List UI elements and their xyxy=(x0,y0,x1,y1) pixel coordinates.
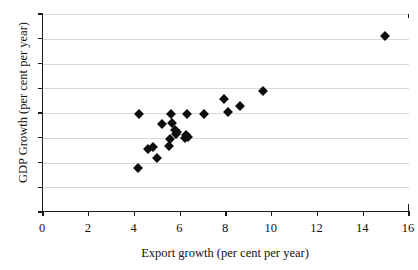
data-point xyxy=(235,101,245,111)
x-axis-title: Export growth (per cent per year) xyxy=(42,246,408,261)
x-tick-label-8: 8 xyxy=(210,222,240,235)
y-tick-3 xyxy=(38,137,43,138)
x-tick-label-10: 10 xyxy=(256,222,286,235)
data-point xyxy=(152,153,162,163)
x-tick-16 xyxy=(408,211,409,216)
x-tick-label-14: 14 xyxy=(347,222,377,235)
y-tick-5 xyxy=(38,88,43,89)
data-point xyxy=(223,107,233,117)
x-tick-2 xyxy=(88,211,89,216)
y-tick-2 xyxy=(38,162,43,163)
gridline-y-1 xyxy=(43,187,409,188)
y-tick-8 xyxy=(38,13,43,14)
plot-border-right-bottom xyxy=(408,204,409,211)
data-point xyxy=(219,94,229,104)
plot-border-right-top xyxy=(408,14,409,18)
y-tick-4 xyxy=(38,112,43,113)
x-tick-label-0: 0 xyxy=(27,222,57,235)
x-tick-6 xyxy=(180,211,181,216)
y-tick-1 xyxy=(38,187,43,188)
x-tick-4 xyxy=(134,211,135,216)
data-point xyxy=(182,109,192,119)
x-tick-label-2: 2 xyxy=(73,222,103,235)
y-tick-7 xyxy=(38,38,43,39)
gridline-y-6 xyxy=(43,64,409,65)
gridline-y-8 xyxy=(43,14,409,15)
data-point xyxy=(133,163,143,173)
x-tick-label-6: 6 xyxy=(164,222,194,235)
x-tick-12 xyxy=(317,211,318,216)
y-tick-6 xyxy=(38,63,43,64)
x-tick-label-12: 12 xyxy=(302,222,332,235)
plot-area xyxy=(42,14,408,212)
gridline-y-5 xyxy=(43,88,409,89)
gridline-y-7 xyxy=(43,39,409,40)
x-tick-8 xyxy=(225,211,226,216)
x-tick-label-4: 4 xyxy=(119,222,149,235)
y-axis-title: GDP Growth (per cent per year) xyxy=(16,3,31,203)
data-point xyxy=(258,86,268,96)
x-tick-14 xyxy=(363,211,364,216)
data-point xyxy=(199,109,209,119)
data-point xyxy=(134,109,144,119)
x-tick-0 xyxy=(42,211,43,216)
data-point xyxy=(157,119,167,129)
scatter-chart: 012345678 0246810121416 Export growth (p… xyxy=(0,0,418,270)
x-tick-label-16: 16 xyxy=(393,222,418,235)
gridline-y-3 xyxy=(43,138,409,139)
gridline-y-2 xyxy=(43,163,409,164)
x-tick-10 xyxy=(271,211,272,216)
